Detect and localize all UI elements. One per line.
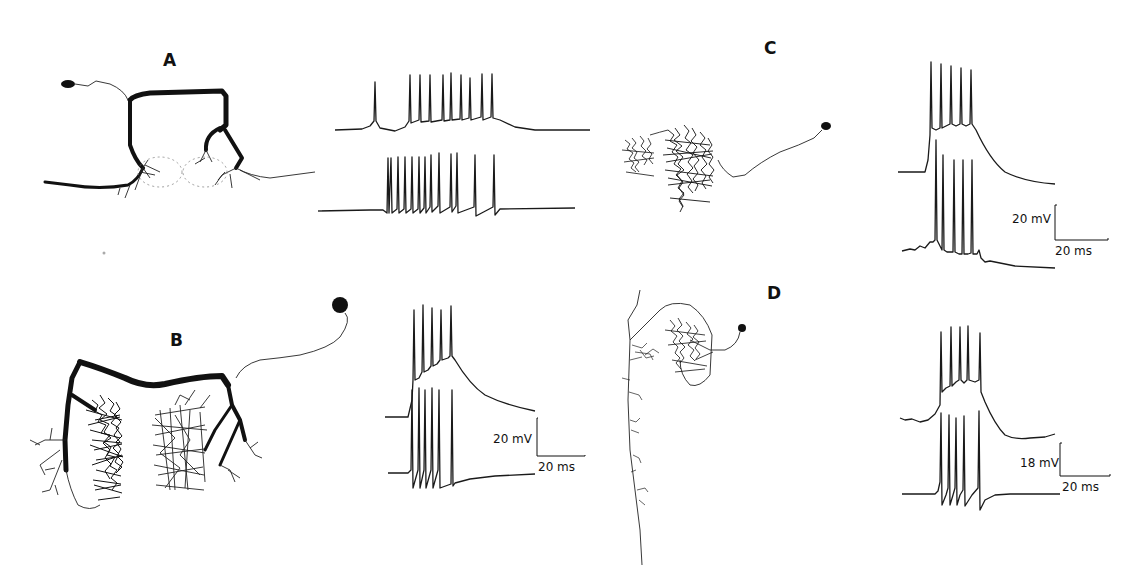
neuron-drawing-b <box>30 297 348 509</box>
figure-canvas <box>0 0 1142 581</box>
voltage-trace-c-top <box>898 62 1055 184</box>
voltage-trace-a-bottom <box>318 153 575 216</box>
voltage-trace-a-top <box>335 73 590 131</box>
neuron-drawing-c <box>622 122 831 212</box>
scale-bar-c <box>1055 205 1108 240</box>
scale-bar-b <box>537 418 585 456</box>
scale-voltage-c: 20 mV <box>1012 212 1051 226</box>
scale-bar-d <box>1060 443 1110 476</box>
voltage-trace-b-top <box>385 305 535 417</box>
scale-time-b: 20 ms <box>538 460 575 474</box>
scale-voltage-b: 20 mV <box>493 432 532 446</box>
scale-voltage-d: 18 mV <box>1020 456 1059 470</box>
neuron-drawing-a <box>45 80 315 198</box>
voltage-trace-c-bottom <box>902 140 1055 268</box>
specks <box>103 252 106 255</box>
scale-time-c: 20 ms <box>1055 244 1092 258</box>
scale-time-d: 20 ms <box>1062 480 1099 494</box>
voltage-trace-d-top <box>900 326 1055 439</box>
neuron-drawing-d <box>622 290 746 565</box>
